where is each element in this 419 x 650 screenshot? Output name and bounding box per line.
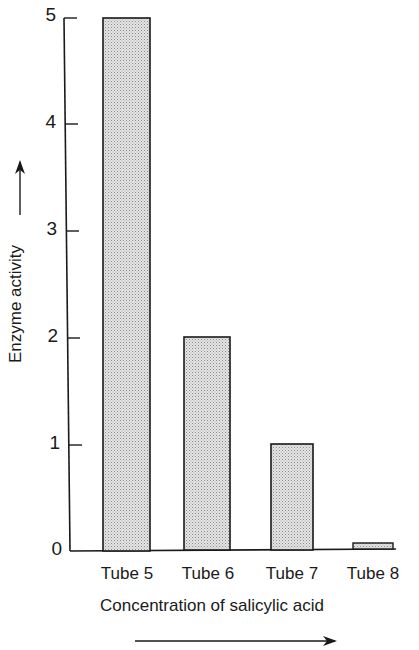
y-tick-0: 0 <box>42 538 62 560</box>
y-tick-4: 4 <box>36 111 56 133</box>
y-tick-1: 1 <box>40 432 60 454</box>
x-axis-title: Concentration of salicylic acid <box>100 596 324 616</box>
bar-chart: 5 4 3 2 1 0 Enzyme activity Tube 5 Tube … <box>0 0 419 650</box>
y-axis <box>64 18 70 551</box>
bar-tube-6 <box>184 337 230 550</box>
category-label-tube-5: Tube 5 <box>87 564 167 584</box>
y-tick-3: 3 <box>37 218 57 240</box>
bar-tube-5 <box>103 18 150 551</box>
y-axis-title: Enzyme activity <box>4 160 28 400</box>
chart-canvas <box>0 0 419 650</box>
bar-tube-7 <box>271 444 313 550</box>
category-label-tube-7: Tube 7 <box>252 564 332 584</box>
y-tick-2: 2 <box>38 325 58 347</box>
y-tick-5: 5 <box>36 4 56 26</box>
bar-tube-8 <box>353 543 393 549</box>
category-label-tube-6: Tube 6 <box>168 564 248 584</box>
category-label-tube-8: Tube 8 <box>333 564 413 584</box>
y-ticks <box>64 18 82 445</box>
